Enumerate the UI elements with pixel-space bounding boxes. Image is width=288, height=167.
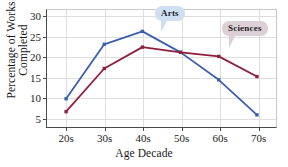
- callout-sciences: Sciences: [222, 21, 268, 36]
- x-tick-label: 40s: [136, 132, 151, 144]
- y-axis-title-line-2: Completed: [17, 24, 30, 75]
- line-chart: Percentage of Works Completed 5101520253…: [0, 0, 288, 167]
- callout-arts-tail: [161, 21, 167, 32]
- x-tick: [220, 127, 221, 131]
- data-point-marker: [255, 113, 258, 116]
- y-axis-title-line-1: Percentage of Works: [5, 1, 18, 98]
- data-point-marker: [255, 75, 258, 78]
- callout-sciences-tail: [229, 36, 235, 48]
- callout-sciences-label: Sciences: [228, 23, 262, 33]
- x-tick: [182, 127, 183, 131]
- y-tick-label: 5: [36, 113, 42, 125]
- data-point-marker: [103, 43, 106, 46]
- x-tick: [66, 127, 67, 131]
- x-tick-label: 70s: [251, 132, 266, 144]
- data-point-marker: [64, 110, 67, 113]
- x-tick-label: 50s: [174, 132, 189, 144]
- x-tick-label: 20s: [59, 132, 74, 144]
- data-point-marker: [217, 78, 220, 81]
- y-tick-label: 25: [30, 31, 41, 43]
- y-tick-label: 15: [30, 72, 41, 84]
- x-tick-label: 60s: [213, 132, 228, 144]
- callout-arts: Arts: [155, 6, 185, 21]
- x-tick: [105, 127, 106, 131]
- data-point-marker: [141, 45, 144, 48]
- data-point-marker: [179, 51, 182, 54]
- data-point-marker: [141, 30, 144, 33]
- data-point-marker: [217, 55, 220, 58]
- x-tick: [259, 127, 260, 131]
- y-tick-label: 20: [30, 51, 41, 63]
- x-tick-label: 30s: [97, 132, 112, 144]
- x-tick: [143, 127, 144, 131]
- data-point-marker: [103, 67, 106, 70]
- y-tick-label: 30: [30, 10, 41, 22]
- y-axis-title: Percentage of Works Completed: [0, 2, 34, 98]
- x-axis-title: Age Decade: [0, 147, 288, 159]
- y-tick-label: 10: [30, 92, 41, 104]
- data-point-marker: [64, 97, 67, 100]
- callout-arts-label: Arts: [161, 8, 179, 18]
